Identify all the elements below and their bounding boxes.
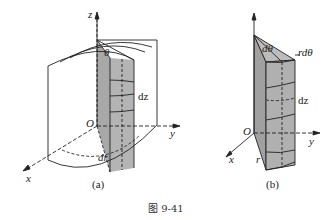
panel-b-diagram: [226, 13, 320, 170]
figure-caption: 图 9-41: [148, 203, 184, 214]
panel-a-label: (a): [92, 178, 105, 191]
x-axis-label-a: x: [25, 172, 31, 184]
origin-label-b: O: [243, 125, 251, 137]
rdtheta-label: rdθ: [298, 46, 313, 58]
z-axis-arrow-icon: [95, 12, 99, 19]
x-axis-arrow-icon: [23, 165, 30, 171]
dz-label-b: dz: [298, 94, 309, 106]
panel-a-diagram: [23, 12, 180, 172]
origin-label-a: O: [86, 117, 94, 129]
dr-label: dr: [98, 151, 109, 163]
y-axis-label-a: y: [169, 127, 175, 139]
panel-b-label: (b): [266, 178, 279, 191]
y-axis-arrow-icon-b: [313, 131, 320, 135]
theta-label: θ: [104, 46, 110, 58]
vertical-axis-arrow-icon: [252, 13, 256, 20]
figure-canvas: z θ dz O y x dr (a) dθ rdθ dz O y x r (b…: [0, 0, 335, 220]
x-axis-label-b: x: [228, 153, 234, 165]
dz-label-a: dz: [138, 90, 149, 102]
radius-label: r: [256, 153, 261, 165]
z-axis-label: z: [87, 8, 93, 20]
dtheta-label: dθ: [262, 42, 274, 54]
y-axis-label-b: y: [308, 135, 314, 147]
x-axis: [25, 126, 97, 170]
